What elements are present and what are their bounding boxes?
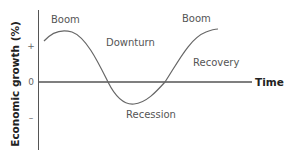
y-tick-zero: 0: [28, 77, 34, 87]
y-tick-plus: +: [27, 41, 35, 51]
business-cycle-chart: + 0 – Economic growth (%) Time Boom Down…: [0, 0, 292, 158]
label-recession: Recession: [126, 109, 176, 120]
x-axis-title: Time: [255, 76, 284, 88]
label-boom-left: Boom: [51, 14, 80, 25]
label-recovery: Recovery: [193, 57, 239, 68]
label-boom-right: Boom: [182, 13, 211, 24]
y-tick-minus: –: [29, 113, 34, 123]
label-downturn: Downturn: [106, 37, 155, 48]
y-axis-title: Economic growth (%): [9, 21, 21, 147]
